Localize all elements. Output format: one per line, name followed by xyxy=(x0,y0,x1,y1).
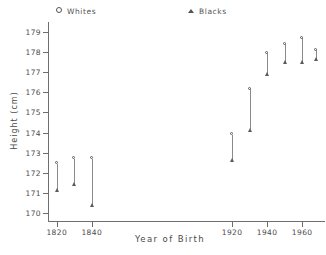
x-tick xyxy=(92,222,93,227)
data-connector-line xyxy=(250,89,251,129)
data-point-whites xyxy=(314,48,317,51)
x-tick-label: 1940 xyxy=(252,228,282,237)
y-tick-label: 172 xyxy=(17,169,41,178)
data-connector-line xyxy=(232,135,233,160)
x-tick xyxy=(57,222,58,227)
data-point-blacks xyxy=(90,203,94,207)
y-tick-label: 177 xyxy=(17,68,41,77)
data-point-blacks xyxy=(300,60,304,64)
y-tick-label: 175 xyxy=(17,108,41,117)
data-point-blacks xyxy=(72,182,76,186)
data-point-whites xyxy=(248,87,251,90)
legend-label-whites: Whites xyxy=(67,7,96,16)
scatter-chart: Whites Blacks 17017117217317417517617717… xyxy=(0,0,326,255)
x-axis-title: Year of Birth xyxy=(110,234,230,244)
y-tick-label: 170 xyxy=(17,209,41,218)
data-point-blacks xyxy=(248,128,252,132)
data-connector-line xyxy=(57,164,58,190)
y-tick xyxy=(43,133,48,134)
x-tick-label: 1840 xyxy=(77,228,107,237)
data-point-blacks xyxy=(314,57,318,61)
y-tick xyxy=(43,173,48,174)
data-point-blacks xyxy=(283,60,287,64)
y-tick xyxy=(43,72,48,73)
y-tick-label: 171 xyxy=(17,189,41,198)
y-tick xyxy=(43,213,48,214)
y-tick-label: 174 xyxy=(17,129,41,138)
data-point-blacks xyxy=(265,72,269,76)
data-point-whites xyxy=(283,42,286,45)
data-connector-line xyxy=(302,38,303,62)
x-tick xyxy=(302,222,303,227)
y-tick-label: 179 xyxy=(17,28,41,37)
y-axis-line xyxy=(48,22,49,222)
y-tick xyxy=(43,153,48,154)
data-connector-line xyxy=(267,53,268,74)
data-connector-line xyxy=(92,159,93,205)
legend-label-blacks: Blacks xyxy=(199,7,227,16)
data-point-whites xyxy=(300,36,303,39)
y-tick xyxy=(43,92,48,93)
y-tick xyxy=(43,52,48,53)
legend-item-whites: Whites xyxy=(56,7,96,16)
y-tick-label: 176 xyxy=(17,88,41,97)
y-tick xyxy=(43,32,48,33)
data-point-whites xyxy=(90,156,93,159)
data-point-whites xyxy=(265,51,268,54)
y-tick xyxy=(43,193,48,194)
y-tick-label: 173 xyxy=(17,149,41,158)
open-circle-icon xyxy=(56,6,64,15)
y-tick xyxy=(43,112,48,113)
y-axis-title: Height (cm) xyxy=(10,81,19,161)
x-tick xyxy=(232,222,233,227)
data-point-whites xyxy=(55,161,58,164)
filled-triangle-icon xyxy=(188,6,196,15)
data-point-blacks xyxy=(230,158,234,162)
data-point-blacks xyxy=(55,188,59,192)
legend-item-blacks: Blacks xyxy=(188,7,227,16)
x-tick-label: 1820 xyxy=(42,228,72,237)
x-tick xyxy=(267,222,268,227)
data-connector-line xyxy=(74,159,75,184)
x-tick-label: 1960 xyxy=(287,228,317,237)
x-axis-line xyxy=(48,221,325,222)
y-tick-label: 178 xyxy=(17,48,41,57)
